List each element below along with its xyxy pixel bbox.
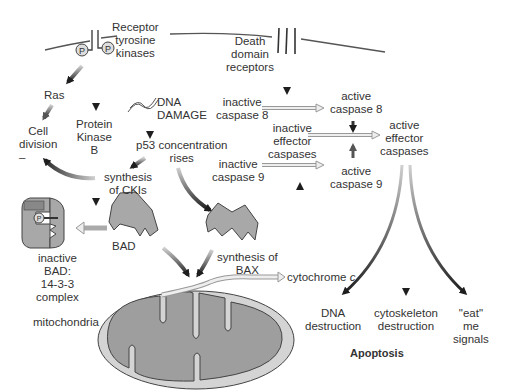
eat-me-signals-label: "eat"mesignals (453, 307, 489, 346)
svg-text:P: P (37, 215, 42, 222)
bad-label: BAD (112, 240, 136, 253)
mitochondrion-icon (98, 291, 294, 389)
arrow-c8-activation (262, 104, 324, 112)
cytoskeleton-destruction-label: cytoskeletondestruction (374, 307, 438, 333)
arrow-c9-activation (262, 161, 324, 169)
plasma-membrane (45, 33, 385, 52)
active-caspase-9-label: activecaspase 9 (330, 165, 382, 191)
inactive-complex-label: inactiveBAD:14-3-3complex (36, 252, 79, 304)
dna-helix-icon (128, 98, 158, 112)
cytochrome-c-label: cytochrome c (287, 271, 355, 284)
rtk-label: Receptortyrosinekinases (112, 21, 159, 60)
svg-text:P: P (105, 44, 111, 54)
arrow-bad-mito (163, 248, 188, 275)
bad-protein-icon (109, 192, 158, 236)
arrow-p53-bax (178, 168, 210, 210)
active-effector-label: activeeffectorcaspases (380, 119, 429, 158)
svg-text:P: P (79, 46, 85, 56)
ras-label: Ras (44, 89, 64, 102)
inactive-caspase-9-label: inactivecaspase 9 (212, 158, 264, 184)
mitochondria-label: mitochondria (33, 316, 99, 329)
cki-label: synthesisof CKIs (104, 171, 152, 197)
bax-label: synthesis ofBAX (217, 251, 278, 277)
receptor-tyrosine-kinase-icon (88, 30, 102, 50)
bax-protein-icon (206, 203, 258, 240)
inactive-caspase-8-label: inactivecaspase 8 (216, 96, 268, 122)
arrow-rtk-ras (68, 66, 82, 82)
arrow-bax-mito (198, 250, 212, 275)
arrow-ras-division (44, 105, 52, 118)
dna-destruction-label: DNAdestruction (305, 307, 361, 333)
protein-kinase-b-label: ProteinKinaseB (76, 118, 112, 157)
arrow-effector-eat (410, 165, 465, 293)
inactive-effector-label: inactiveeffectorcaspases (268, 122, 317, 161)
apoptosis-title: Apoptosis (350, 347, 404, 360)
death-receptor-label: Deathdomainreceptors (226, 35, 274, 74)
dna-damage-label: DNADAMAGE (157, 96, 207, 122)
death-receptor-icon (278, 28, 295, 54)
inactive-bad-14-3-3-complex-icon: P (22, 198, 64, 248)
arrow-effector-activation (308, 131, 380, 139)
phosphate-icon: P P (76, 42, 114, 56)
cell-division-label: Celldivision– (19, 125, 57, 164)
active-caspase-8-label: activecaspase 8 (330, 90, 382, 116)
